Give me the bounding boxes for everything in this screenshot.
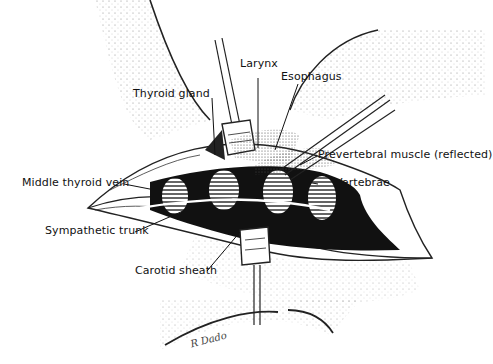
label-vertebrae: Vertebrae [335, 176, 390, 189]
label-sympathetic-trunk: Sympathetic trunk [45, 224, 149, 237]
label-thyroid-gland: Thyroid gland [133, 87, 210, 100]
skin-upper-left [95, 0, 210, 140]
label-larynx: Larynx [240, 57, 278, 70]
label-esophagus: Esophagus [281, 70, 342, 83]
label-carotid-sheath: Carotid sheath [135, 264, 217, 277]
label-middle-thyroid-vein: Middle thyroid vein [22, 176, 129, 189]
label-prevertebral-muscle: Prevertebral muscle (reflected) [318, 148, 493, 161]
